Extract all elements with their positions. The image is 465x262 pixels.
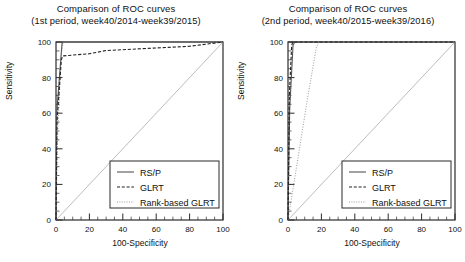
panel-left-ytick-100: 100 <box>38 38 52 47</box>
panel-right-ytick-80: 80 <box>274 74 283 83</box>
panel-right-x-axis: 0 20 40 60 80 100 <box>286 214 462 235</box>
panel-left-xtick-100: 100 <box>216 225 230 234</box>
panel-right-legend-label-0: RS/P <box>372 168 393 178</box>
panel-right-xlabel: 100-Specificity <box>288 238 456 248</box>
panel-left-legend: RS/P GLRT Rank-based GLRT <box>110 161 219 208</box>
panel-left-xtick-20: 20 <box>85 225 94 234</box>
panel-right-legend-label-1: GLRT <box>372 183 396 193</box>
panel-right-legend-label-2: Rank-based GLRT <box>372 198 447 208</box>
panel-right-plot: Sensitivity 100-Specificity <box>232 0 464 262</box>
panel-left: Comparison of ROC curves (1st period, we… <box>0 0 232 262</box>
panel-right-y-axis: 0 20 40 60 80 100 <box>270 38 295 225</box>
panel-left-ylabel: Sensitivity <box>4 62 14 100</box>
panel-left-y-axis: 0 20 40 60 80 100 <box>38 38 63 225</box>
panel-left-xtick-60: 60 <box>152 225 161 234</box>
panel-right-ytick-40: 40 <box>274 145 283 154</box>
panel-left-plot: Sensitivity 100-Specificity <box>0 0 232 262</box>
panel-left-xtick-40: 40 <box>118 225 127 234</box>
panel-left-legend-label-2: Rank-based GLRT <box>140 198 215 208</box>
panel-right-xtick-40: 40 <box>350 225 359 234</box>
panel-right-ytick-60: 60 <box>274 109 283 118</box>
panel-right-ytick-20: 20 <box>274 180 283 189</box>
roc-figure: Comparison of ROC curves (1st period, we… <box>0 0 465 262</box>
panel-right-xtick-100: 100 <box>448 225 462 234</box>
panel-left-svg: 0 20 40 60 80 100 <box>0 0 232 262</box>
panel-left-ytick-0: 0 <box>47 216 52 225</box>
panel-right-xtick-20: 20 <box>317 225 326 234</box>
panel-right-svg: 0 20 40 60 80 100 <box>232 0 464 262</box>
panel-right-ytick-100: 100 <box>270 38 284 47</box>
panel-right-ylabel: Sensitivity <box>236 62 246 100</box>
panel-right-xtick-80: 80 <box>417 225 426 234</box>
panel-left-ytick-20: 20 <box>42 180 51 189</box>
panel-left-xtick-0: 0 <box>54 225 59 234</box>
panel-right: Comparison of ROC curves (2nd period, we… <box>232 0 464 262</box>
panel-left-xlabel: 100-Specificity <box>56 238 224 248</box>
panel-right-xtick-0: 0 <box>286 225 291 234</box>
panel-left-ytick-60: 60 <box>42 109 51 118</box>
panel-left-ytick-40: 40 <box>42 145 51 154</box>
panel-right-xtick-60: 60 <box>384 225 393 234</box>
panel-left-x-axis: 0 20 40 60 80 100 <box>54 214 230 235</box>
panel-left-legend-label-1: GLRT <box>140 183 164 193</box>
panel-left-legend-label-0: RS/P <box>140 168 161 178</box>
panel-left-xtick-80: 80 <box>185 225 194 234</box>
panel-right-legend: RS/P GLRT Rank-based GLRT <box>342 161 451 208</box>
panel-left-ytick-80: 80 <box>42 74 51 83</box>
panel-right-ytick-0: 0 <box>279 216 284 225</box>
